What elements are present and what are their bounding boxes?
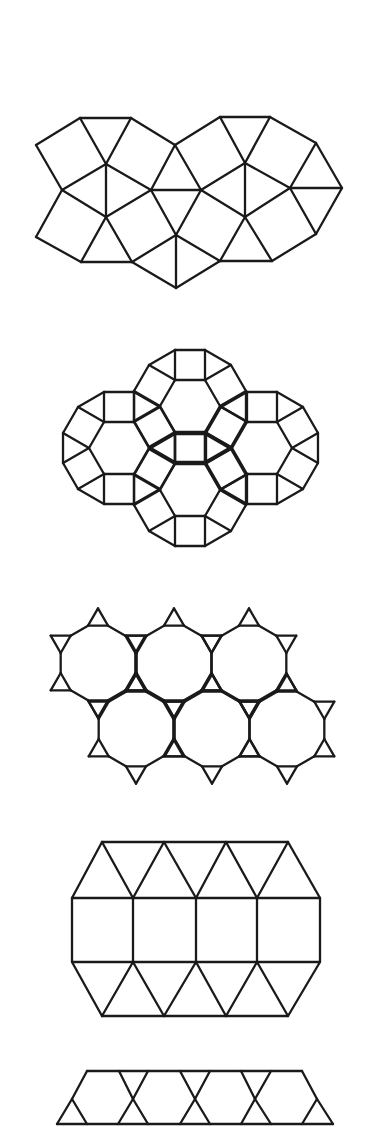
tile-edge xyxy=(36,190,62,237)
tile-edge xyxy=(176,261,220,288)
tile-edge xyxy=(72,1099,87,1124)
tile-edge xyxy=(36,145,62,190)
tile-edge xyxy=(164,962,196,1016)
tile-edge xyxy=(88,608,98,625)
tile-edge xyxy=(133,1071,148,1099)
tile-edge xyxy=(51,636,61,653)
tile-edge xyxy=(241,1071,255,1099)
tile-edge xyxy=(89,739,99,756)
tile-edge xyxy=(61,673,71,690)
tile-edge xyxy=(99,702,109,719)
tile-edge xyxy=(126,766,136,783)
tile-edge xyxy=(205,380,220,406)
tile-edge xyxy=(165,739,175,756)
tile-edge xyxy=(201,190,245,217)
tile-edge xyxy=(288,962,320,1016)
tile-edge xyxy=(149,365,175,380)
tile-edge xyxy=(164,608,174,625)
tile-edge xyxy=(160,380,175,406)
tile-edge xyxy=(149,434,175,449)
tile-edge xyxy=(132,235,176,262)
tile-edge xyxy=(36,237,81,262)
tile-edge xyxy=(119,1071,133,1099)
tile-edge xyxy=(151,190,176,235)
tile-edge xyxy=(276,636,286,653)
tile-edge xyxy=(287,674,297,691)
tile-edge xyxy=(316,143,342,188)
tile-edge xyxy=(106,164,151,190)
tile-edge xyxy=(126,674,136,691)
tile-edge xyxy=(245,163,290,188)
tile-edge xyxy=(72,842,102,898)
tile-edge xyxy=(205,406,220,432)
tile-edge xyxy=(221,407,247,422)
tile-edge xyxy=(232,422,247,448)
tile-edge xyxy=(292,433,318,448)
tile-edge xyxy=(288,842,320,898)
tile-edge xyxy=(164,842,196,898)
tile-edge xyxy=(89,448,104,474)
tile-edge xyxy=(72,1071,87,1099)
tile-edge xyxy=(212,766,222,783)
tile-edge xyxy=(165,702,175,719)
tile-edge xyxy=(206,407,221,433)
tile-edge xyxy=(118,1099,133,1124)
tile-edge xyxy=(220,217,245,261)
tile-edge xyxy=(206,433,232,448)
tile-edge xyxy=(137,673,147,690)
tile-edge xyxy=(137,636,147,653)
tile-edge xyxy=(226,842,257,898)
tile-edge xyxy=(106,118,131,164)
tile-edge xyxy=(184,626,201,636)
tiling-4-elongated-triangular xyxy=(72,842,320,1016)
tile-edge xyxy=(314,739,324,756)
tile-edge xyxy=(255,1099,271,1124)
tile-edge xyxy=(286,636,296,653)
tile-edge xyxy=(205,516,231,531)
tile-edge xyxy=(221,392,247,407)
tile-edge xyxy=(205,464,220,490)
tilings-figure xyxy=(0,0,367,1127)
tile-edge xyxy=(175,739,185,756)
tile-edge xyxy=(71,690,88,700)
tile-edge xyxy=(221,489,247,504)
tile-edge xyxy=(249,608,259,625)
tile-edge xyxy=(132,262,176,288)
tile-edge xyxy=(297,692,314,702)
tile-edge xyxy=(220,117,245,163)
tile-edge xyxy=(160,464,175,490)
tile-edge xyxy=(135,636,145,653)
tile-edge xyxy=(195,1099,210,1124)
tile-edge xyxy=(72,962,102,1016)
tile-edge xyxy=(127,636,137,653)
tile-edge xyxy=(71,626,88,636)
tile-edge xyxy=(176,235,220,261)
tile-edge xyxy=(176,190,201,235)
tile-edge xyxy=(163,739,173,756)
tile-edge xyxy=(222,692,239,702)
tile-edge xyxy=(149,531,175,546)
tile-edge xyxy=(62,164,106,190)
tile-edge xyxy=(134,406,160,421)
tile-edge xyxy=(240,702,250,719)
tiling-3-truncated-hexagonal xyxy=(51,608,335,783)
tile-edge xyxy=(241,1099,255,1124)
tile-edge xyxy=(147,626,164,636)
tile-edge xyxy=(205,447,231,462)
tile-edge xyxy=(290,188,316,234)
tile-edge xyxy=(205,434,231,449)
tile-edge xyxy=(220,475,246,490)
tile-edge xyxy=(133,1099,148,1124)
tile-edge xyxy=(222,626,239,636)
tile-edge xyxy=(297,756,314,766)
tile-edge xyxy=(109,756,126,766)
tile-edge xyxy=(277,392,303,407)
tile-edge xyxy=(257,962,288,1016)
tile-edge xyxy=(196,842,226,898)
tile-edge xyxy=(324,702,334,719)
tile-edge xyxy=(163,702,173,719)
tile-edge xyxy=(149,449,175,464)
tile-edge xyxy=(134,365,149,391)
tile-edge xyxy=(63,407,78,433)
tile-edge xyxy=(175,145,201,190)
